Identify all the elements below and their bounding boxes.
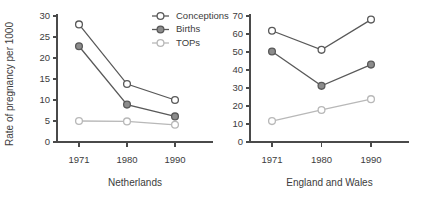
- legend-label: Births: [176, 23, 201, 34]
- y-axis-label: Rate of pregnancy per 1000: [4, 22, 15, 146]
- data-point: [172, 121, 179, 128]
- legend-marker: [157, 13, 164, 20]
- legend-item-births: Births: [152, 23, 201, 34]
- series-tops: [76, 118, 179, 129]
- y-tick-label: 70: [232, 10, 243, 21]
- data-point: [172, 97, 179, 104]
- y-tick-label: 0: [238, 136, 243, 147]
- x-tick-label: 1971: [68, 154, 89, 165]
- data-point: [76, 118, 83, 125]
- data-point: [124, 118, 131, 125]
- data-point: [368, 61, 375, 68]
- legend-item-conceptions: Conceptions: [152, 10, 229, 21]
- x-tick-label: 1990: [164, 154, 185, 165]
- series-conceptions: [76, 21, 179, 103]
- legend-marker: [157, 40, 164, 47]
- y-tick-label: 20: [232, 100, 243, 111]
- legend: ConceptionsBirthsTOPs: [152, 10, 229, 48]
- series-line: [272, 20, 371, 50]
- y-tick-label: 20: [39, 52, 50, 63]
- data-point: [172, 113, 179, 120]
- x-tick-label: 1990: [360, 154, 381, 165]
- legend-item-tops: TOPs: [152, 37, 200, 48]
- y-tick-label: 15: [39, 73, 50, 84]
- data-point: [318, 46, 325, 53]
- series-births: [269, 48, 375, 89]
- series-conceptions: [269, 16, 375, 53]
- data-point: [124, 101, 131, 108]
- y-tick-label: 30: [232, 82, 243, 93]
- data-point: [368, 96, 375, 103]
- series-line: [272, 51, 371, 85]
- series-tops: [269, 96, 375, 125]
- panel-england-and-wales: 010203040506070197119801990England and W…: [232, 10, 409, 188]
- data-point: [368, 16, 375, 23]
- data-point: [318, 82, 325, 89]
- data-point: [124, 81, 131, 88]
- y-tick-label: 30: [39, 10, 50, 21]
- data-point: [269, 48, 276, 55]
- data-point: [76, 21, 83, 28]
- y-tick-label: 10: [39, 94, 50, 105]
- panel-caption: Netherlands: [108, 177, 162, 188]
- legend-label: Conceptions: [176, 10, 229, 21]
- legend-label: TOPs: [176, 37, 200, 48]
- y-tick-label: 60: [232, 28, 243, 39]
- legend-marker: [157, 26, 164, 33]
- chart-canvas: Rate of pregnancy per 100005101520253019…: [0, 0, 421, 200]
- y-tick-label: 40: [232, 64, 243, 75]
- y-tick-label: 5: [45, 115, 50, 126]
- data-point: [269, 27, 276, 34]
- y-tick-label: 50: [232, 46, 243, 57]
- pregnancy-rate-figure: Rate of pregnancy per 100005101520253019…: [0, 0, 421, 200]
- data-point: [269, 118, 276, 125]
- panel-caption: England and Wales: [286, 177, 372, 188]
- x-tick-label: 1971: [261, 154, 282, 165]
- y-tick-label: 25: [39, 31, 50, 42]
- y-tick-label: 10: [232, 118, 243, 129]
- y-tick-label: 0: [45, 136, 50, 147]
- x-tick-label: 1980: [116, 154, 137, 165]
- series-line: [79, 24, 175, 100]
- data-point: [76, 43, 83, 50]
- x-tick-label: 1980: [311, 154, 332, 165]
- data-point: [318, 107, 325, 114]
